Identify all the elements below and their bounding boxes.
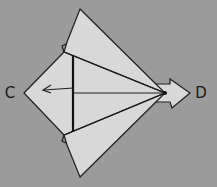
point-label-d: D bbox=[195, 86, 207, 101]
diagram-canvas: C D bbox=[0, 0, 217, 187]
origami-diagram bbox=[0, 0, 217, 187]
convergence-point bbox=[163, 91, 167, 95]
point-label-c: C bbox=[5, 86, 15, 101]
